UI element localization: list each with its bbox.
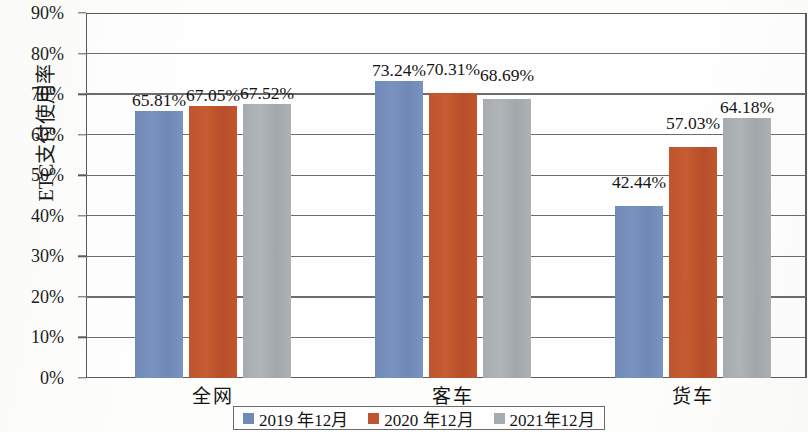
y-axis-tick-mark: [78, 93, 86, 94]
x-axis-category-label: 全网: [192, 381, 234, 408]
legend-item: 2019 年12月: [243, 406, 348, 431]
legend-swatch-icon: [243, 413, 254, 424]
legend-label: 2021年12月: [510, 406, 595, 431]
y-axis-tick-label: 10%: [2, 327, 64, 348]
chart-legend: 2019 年12月2020 年12月2021年12月: [233, 406, 605, 430]
y-axis-tick-label: 30%: [2, 246, 64, 267]
bar-data-label: 67.05%: [186, 85, 240, 106]
x-axis-category-label: 客车: [432, 381, 474, 408]
y-axis-tick-label: 20%: [2, 286, 64, 307]
y-axis-tick-label: 70%: [2, 84, 64, 105]
bar: [243, 104, 291, 378]
bar-data-label: 70.31%: [426, 59, 480, 80]
plot-right-border: [805, 13, 807, 378]
bar-data-label: 42.44%: [612, 172, 666, 193]
legend-swatch-icon: [368, 413, 379, 424]
y-axis-tick-label: 80%: [2, 43, 64, 64]
y-axis-tick-mark: [78, 256, 86, 257]
bar-data-label: 57.03%: [666, 113, 720, 134]
legend-item: 2020 年12月: [368, 406, 473, 431]
bar: [483, 99, 531, 378]
gridline: [86, 53, 806, 54]
bar-data-label: 73.24%: [372, 60, 426, 81]
bar-fill: [189, 106, 237, 378]
legend-item: 2021年12月: [494, 406, 595, 431]
y-axis-tick-label: 60%: [2, 124, 64, 145]
y-axis-tick-mark: [78, 53, 86, 54]
bar-data-label: 64.18%: [720, 97, 774, 118]
y-axis-tick-mark: [78, 134, 86, 135]
bar-data-label: 67.52%: [240, 83, 294, 104]
bar-fill: [483, 99, 531, 378]
y-axis-tick-label: 50%: [2, 165, 64, 186]
y-axis-tick-mark: [78, 377, 86, 378]
bar-fill: [243, 104, 291, 378]
etc-payment-usage-bar-chart: ETC支付使用率 0%10%20%30%40%50%60%70%80%90% 6…: [0, 0, 808, 432]
y-axis-tick-label: 40%: [2, 205, 64, 226]
bar-fill: [669, 147, 717, 378]
bar-fill: [375, 81, 423, 378]
bar: [189, 106, 237, 378]
legend-swatch-icon: [494, 413, 505, 424]
bar: [135, 111, 183, 378]
legend-label: 2020 年12月: [384, 406, 473, 431]
bar: [375, 81, 423, 378]
bar-data-label: 65.81%: [132, 90, 186, 111]
y-axis-tick-mark: [78, 337, 86, 338]
y-axis-tick-label: 0%: [2, 368, 64, 389]
y-axis-tick-mark: [78, 12, 86, 13]
bar-fill: [135, 111, 183, 378]
bar-fill: [429, 93, 477, 378]
bar: [669, 147, 717, 378]
bar: [429, 93, 477, 378]
y-axis-tick-mark: [78, 175, 86, 176]
bar-fill: [723, 118, 771, 378]
legend-label: 2019 年12月: [259, 406, 348, 431]
bar-data-label: 68.69%: [480, 65, 534, 86]
x-axis-category-label: 货车: [672, 381, 714, 408]
bar: [615, 206, 663, 378]
y-axis-tick-label: 90%: [2, 3, 64, 24]
y-axis-tick-mark: [78, 215, 86, 216]
y-axis-tick-mark: [78, 296, 86, 297]
bar: [723, 118, 771, 378]
bar-fill: [615, 206, 663, 378]
